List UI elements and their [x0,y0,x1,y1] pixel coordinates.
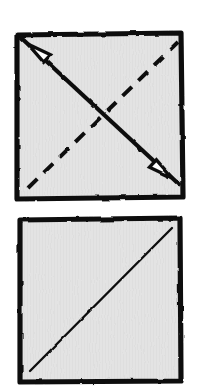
panel-bottom-step-2 [20,218,181,382]
diagram-canvas [0,0,198,386]
figure-root: Origami fold diagram: diagonal valley fo… [0,0,198,386]
panel-top-step-1 [17,33,183,199]
